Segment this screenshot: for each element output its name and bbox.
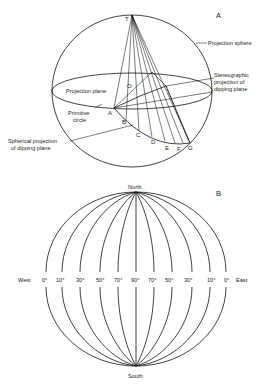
dip-label: 50°	[165, 277, 173, 283]
dip-label: 10°	[56, 277, 64, 283]
panel-a: A T O A B	[8, 11, 252, 167]
point-t: T	[125, 16, 129, 22]
label-primitive-1: Primitive	[68, 110, 89, 116]
label-stereo-3: dipping plane	[214, 86, 247, 92]
dip-label: 30°	[76, 277, 84, 283]
dip-label: 10°	[207, 277, 215, 283]
label-spherical-1: Spherical projection	[8, 138, 57, 144]
leader-spherical	[70, 125, 133, 141]
point-g: G	[188, 145, 193, 151]
point-a: A	[108, 110, 112, 116]
dip-label: 90°	[131, 277, 139, 283]
dip-label: 0°	[224, 277, 229, 283]
point-c: C	[136, 132, 141, 138]
label-stereo-1: Stereographic	[214, 72, 249, 78]
label-north: North	[128, 184, 142, 190]
label-projection-sphere: Projection sphere	[208, 40, 252, 46]
stereographic-projection-curve	[114, 86, 190, 143]
panel-b-label: B	[216, 189, 221, 198]
point-b: B	[122, 119, 126, 125]
panel-a-label: A	[216, 11, 221, 20]
point-e: E	[165, 145, 169, 151]
dip-label: 70°	[148, 277, 156, 283]
label-south: South	[128, 373, 143, 379]
stereographic-projection-figure: A T O A B	[0, 0, 259, 386]
label-stereo-2: projection of	[214, 79, 245, 85]
label-east: East	[236, 277, 248, 283]
dip-label: 70°	[114, 277, 122, 283]
label-spherical-2: of dipping plane	[11, 145, 51, 151]
dip-label: 50°	[96, 277, 104, 283]
dip-label: 30°	[184, 277, 192, 283]
label-primitive-2: circle	[73, 117, 86, 123]
label-west: West	[18, 277, 31, 283]
point-o: O	[127, 83, 132, 89]
point-f: F	[177, 146, 181, 152]
dip-labels: 0° 10° 30° 50° 70° 90° 70° 50° 30° 10° 0…	[42, 277, 229, 283]
panel-b: B North South West East 0° 10° 30° 50° 7…	[18, 184, 248, 379]
dip-label: 0°	[42, 277, 47, 283]
label-projection-plane: Projection plane	[66, 88, 106, 94]
point-d: D	[151, 139, 156, 145]
